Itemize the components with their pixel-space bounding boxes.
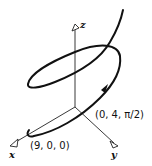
point-label-quarter: (0, 4, π/2) <box>95 110 144 120</box>
y-arrowhead-icon <box>110 141 118 148</box>
z-axis-label: z <box>80 20 86 30</box>
x-axis-label: x <box>9 150 15 160</box>
helix-diagram <box>0 0 152 166</box>
z-arrowhead-icon <box>72 24 79 31</box>
point-label-start: (9, 0, 0) <box>30 141 70 151</box>
x-arrowhead-icon <box>10 139 18 147</box>
y-axis-label: y <box>111 150 117 160</box>
